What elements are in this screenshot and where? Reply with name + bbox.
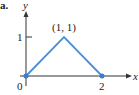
y-axis-label: y (22, 0, 28, 11)
x-tick-label-2: 2 (99, 80, 105, 92)
x-axis-label: x (132, 70, 138, 82)
part-label: a. (0, 0, 9, 11)
origin-label: 0 (17, 80, 23, 92)
point-2-0 (100, 74, 105, 79)
graph: a. y x 1 0 2 (1, 1) (0, 0, 139, 95)
point-origin (24, 74, 29, 79)
peak-label: (1, 1) (52, 21, 76, 34)
x-axis-arrow-icon (126, 74, 132, 79)
function-line (26, 37, 102, 76)
y-axis-arrow-icon (24, 11, 29, 17)
y-tick-label-1: 1 (17, 31, 23, 43)
